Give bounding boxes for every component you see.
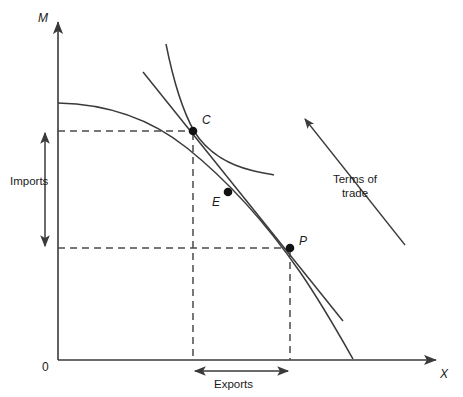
terms-of-trade-group: Terms of trade [305,119,405,245]
guide-lines-group [58,131,292,360]
exports-label: Exports [214,378,253,390]
point-marker-c [189,127,198,136]
indifference-curve [166,44,274,175]
imports-measure-group: Imports [10,133,49,246]
terms-of-trade-label-line1: Terms of [333,173,378,185]
imports-label: Imports [10,175,49,187]
origin-label: 0 [42,360,49,374]
terms-of-trade-label-line2: trade [342,187,368,199]
point-marker-e [224,188,233,197]
y-axis-label: M [38,11,48,25]
point-marker-p [286,244,295,253]
production-possibility-frontier-curve [58,103,353,359]
economics-diagram-figure: M X 0 C E P Imports [0,0,463,397]
point-label-c: C [202,113,211,127]
exports-measure-group: Exports [195,371,288,390]
price-line [143,72,343,321]
points-group: C E P [189,113,307,252]
terms-of-trade-diagram: M X 0 C E P Imports [0,0,463,397]
curves-group [58,44,353,359]
point-label-e: E [212,195,221,209]
x-axis-label: X [439,367,449,381]
point-label-p: P [299,234,307,248]
